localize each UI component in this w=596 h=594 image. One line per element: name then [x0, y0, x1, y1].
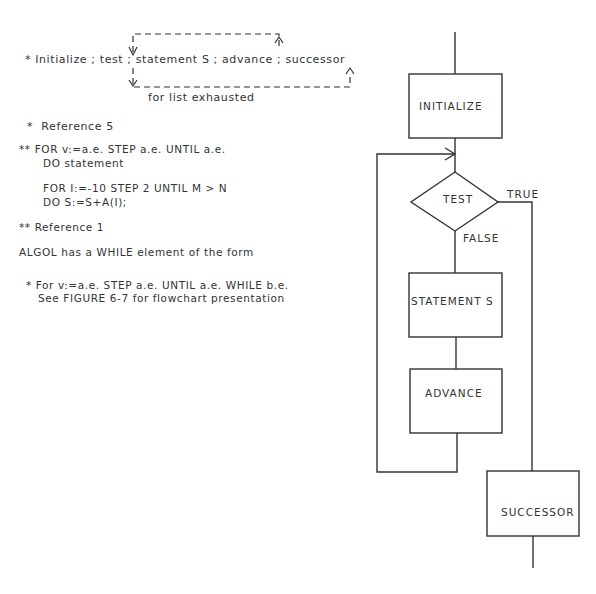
statement-label: STATEMENT S — [411, 295, 494, 307]
true-label: TRUE — [506, 188, 539, 200]
flowchart: INITIALIZE TEST TRUE FALSE STATEMENT S A… — [0, 0, 596, 594]
successor-box — [487, 471, 579, 536]
advance-label: ADVANCE — [425, 387, 483, 399]
advance-box — [410, 369, 502, 433]
initialize-label: INITIALIZE — [419, 100, 483, 112]
test-label: TEST — [442, 193, 473, 205]
false-label: FALSE — [463, 232, 499, 244]
successor-label: SUCCESSOR — [501, 506, 575, 518]
